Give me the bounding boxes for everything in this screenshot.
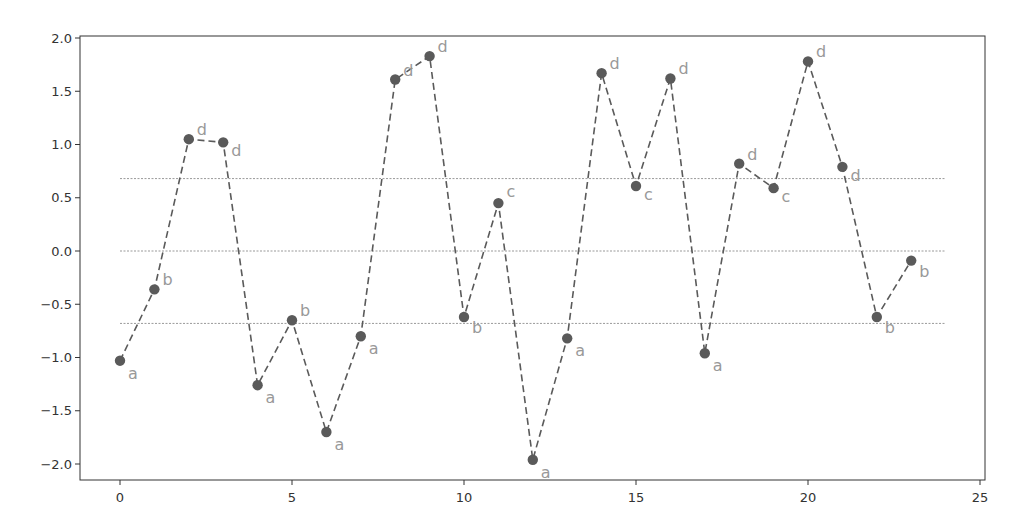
data-point-marker — [493, 198, 503, 208]
y-tick-label: −0.5 — [40, 297, 72, 312]
data-point-label: a — [713, 356, 723, 375]
data-point-label: a — [369, 339, 379, 358]
data-point-label: d — [678, 59, 688, 78]
data-point-marker — [700, 348, 710, 358]
data-point-marker — [562, 333, 572, 343]
data-point-label: a — [575, 341, 585, 360]
data-point-label: d — [816, 42, 826, 61]
x-tick-label: 25 — [972, 490, 989, 505]
data-point-marker — [837, 162, 847, 172]
data-point-label: d — [747, 145, 757, 164]
data-point-label: a — [541, 463, 551, 482]
data-point-marker — [803, 56, 813, 66]
y-tick-label: 2.0 — [51, 31, 72, 46]
data-point-marker — [115, 355, 125, 365]
data-point-marker — [390, 74, 400, 84]
y-tick-label: −2.0 — [40, 457, 72, 472]
data-point-marker — [218, 137, 228, 147]
data-point-marker — [424, 51, 434, 61]
data-point-marker — [665, 73, 675, 83]
data-point-marker — [252, 380, 262, 390]
y-tick-label: 1.5 — [51, 84, 72, 99]
y-tick-label: 0.5 — [51, 190, 72, 205]
data-point-label: b — [472, 318, 482, 337]
data-point-label: a — [334, 435, 344, 454]
data-point-label: d — [850, 166, 860, 185]
y-tick-label: 1.0 — [51, 137, 72, 152]
data-point-marker — [906, 255, 916, 265]
data-point-label: d — [197, 120, 207, 139]
y-tick-label: 0.0 — [51, 244, 72, 259]
y-tick-label: −1.5 — [40, 403, 72, 418]
data-point-marker — [184, 134, 194, 144]
data-point-marker — [459, 312, 469, 322]
data-point-marker — [631, 181, 641, 191]
data-point-label: c — [782, 187, 791, 206]
data-point-marker — [356, 331, 366, 341]
data-point-label: c — [506, 182, 515, 201]
line-chart: abddabaaddbcaadcdadcddbb 0510152025 2.01… — [0, 0, 1014, 531]
data-point-label: d — [438, 37, 448, 56]
data-point-marker — [768, 183, 778, 193]
data-point-label: d — [610, 54, 620, 73]
x-tick-label: 5 — [288, 490, 296, 505]
data-point-marker — [872, 312, 882, 322]
data-point-marker — [596, 68, 606, 78]
y-tick-label: −1.0 — [40, 350, 72, 365]
data-point-label: d — [231, 141, 241, 160]
data-point-marker — [149, 284, 159, 294]
data-point-marker — [287, 315, 297, 325]
data-point-label: b — [885, 318, 895, 337]
data-point-label: a — [128, 364, 138, 383]
data-point-label: c — [644, 185, 653, 204]
x-tick-label: 0 — [116, 490, 124, 505]
data-point-marker — [734, 158, 744, 168]
x-tick-label: 15 — [628, 490, 645, 505]
data-point-label: a — [266, 388, 276, 407]
data-point-marker — [528, 455, 538, 465]
data-point-label: d — [403, 61, 413, 80]
x-tick-label: 10 — [456, 490, 473, 505]
data-point-label: b — [300, 301, 310, 320]
data-point-label: b — [919, 262, 929, 281]
data-point-label: b — [162, 270, 172, 289]
data-point-marker — [321, 427, 331, 437]
x-tick-label: 20 — [800, 490, 817, 505]
